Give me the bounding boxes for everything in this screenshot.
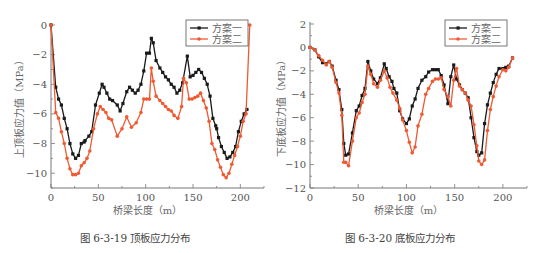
data-marker (469, 104, 473, 108)
y-tick-label: −2 (291, 65, 306, 76)
data-marker (227, 171, 231, 175)
data-marker (357, 111, 361, 115)
data-marker (424, 75, 427, 78)
data-marker (102, 86, 105, 89)
data-marker (134, 92, 137, 95)
data-marker (83, 139, 86, 142)
data-marker (351, 139, 355, 143)
data-marker (325, 63, 329, 67)
data-marker (98, 92, 101, 95)
data-marker (334, 81, 338, 85)
data-marker (158, 99, 162, 103)
data-marker (477, 159, 481, 163)
data-marker (244, 112, 248, 116)
data-marker (497, 67, 500, 70)
data-marker (236, 145, 240, 149)
y-tick-label: −4 (291, 89, 306, 100)
data-marker (230, 162, 234, 166)
y-tick-label: 0 (300, 42, 306, 53)
legend-marker (456, 37, 460, 41)
data-marker (221, 173, 225, 177)
data-marker (202, 99, 206, 103)
data-marker (139, 111, 143, 115)
x-axis-title: 桥梁长度（m） (374, 204, 443, 216)
data-marker (391, 91, 395, 95)
legend-label: 方案一 (212, 22, 242, 34)
data-marker (175, 92, 178, 95)
y-axis-title: 下底板应力值（MPa） (275, 55, 287, 157)
data-marker (200, 71, 203, 74)
legend: 方案一方案二 (445, 20, 507, 46)
data-marker (483, 158, 487, 162)
data-marker (87, 135, 90, 138)
x-tick-label: 150 (183, 192, 202, 203)
x-tick-label: 0 (48, 192, 54, 203)
data-marker (223, 151, 226, 154)
data-marker (92, 127, 96, 131)
data-marker (148, 97, 152, 101)
x-tick-label: 150 (445, 192, 464, 203)
data-marker (369, 73, 373, 77)
data-marker (104, 111, 108, 115)
data-marker (480, 151, 483, 154)
data-marker (189, 75, 192, 78)
y-tick-label: −8 (32, 138, 47, 149)
data-marker (395, 92, 398, 95)
data-marker (176, 117, 180, 121)
data-marker (344, 160, 348, 164)
data-marker (486, 129, 490, 133)
data-marker (461, 88, 465, 92)
data-marker (446, 102, 449, 105)
data-marker (434, 68, 437, 71)
data-marker (88, 149, 92, 153)
data-marker (172, 114, 176, 118)
data-marker (85, 157, 89, 161)
data-marker (77, 171, 81, 175)
data-marker (128, 86, 131, 89)
data-marker (142, 69, 145, 72)
data-marker (77, 154, 80, 157)
data-marker (366, 60, 369, 63)
y-tick-label: −6 (32, 108, 47, 119)
data-marker (164, 105, 168, 109)
data-marker (376, 85, 380, 89)
y-tick-label: 0 (41, 20, 47, 31)
data-marker (363, 92, 367, 96)
data-marker (101, 83, 104, 86)
data-marker (185, 81, 189, 85)
data-marker (180, 105, 184, 109)
data-marker (161, 71, 164, 74)
data-marker (68, 142, 71, 145)
data-marker (208, 95, 211, 98)
data-marker (136, 89, 139, 92)
data-marker (431, 80, 435, 84)
data-marker (231, 151, 234, 154)
data-marker (416, 124, 420, 128)
data-marker (167, 78, 170, 81)
data-marker (63, 117, 66, 120)
data-marker (82, 161, 86, 165)
y-tick-label: −12 (285, 183, 306, 194)
data-marker (347, 164, 351, 168)
data-marker (154, 59, 157, 62)
data-marker (130, 125, 134, 129)
data-marker (62, 142, 66, 146)
y-tick-label: −10 (285, 159, 306, 170)
data-marker (164, 75, 167, 78)
data-marker (355, 109, 358, 112)
data-marker (408, 141, 412, 145)
data-marker (60, 103, 63, 106)
data-marker (317, 54, 321, 58)
x-tick-label: 0 (307, 192, 313, 203)
data-marker (194, 71, 197, 74)
y-tick-label: 2 (300, 19, 306, 30)
data-marker (344, 154, 347, 157)
data-marker (217, 136, 220, 139)
data-marker (452, 63, 455, 66)
data-marker (330, 66, 334, 70)
data-marker (169, 109, 173, 113)
data-marker (390, 80, 393, 83)
data-marker (224, 176, 228, 180)
data-marker (446, 95, 450, 99)
data-marker (327, 60, 331, 64)
